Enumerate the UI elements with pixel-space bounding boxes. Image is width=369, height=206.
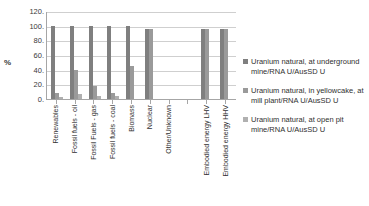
bar[interactable] <box>107 26 111 99</box>
x-axis-label-wrapper <box>179 105 198 205</box>
x-axis-category-label: Nuclear <box>146 105 154 129</box>
y-axis-tick-label: 120. <box>14 8 44 16</box>
y-axis-tick-label: 40. <box>14 67 44 75</box>
x-axis-label-wrapper: Fossil Fuels - gas <box>85 105 104 205</box>
bar[interactable] <box>51 26 55 99</box>
plot-area <box>46 12 236 100</box>
x-axis-tick <box>56 100 57 104</box>
legend-label: Uranium natural, at open pit mine/RNA U/… <box>251 115 367 134</box>
x-axis-tick-wrapper <box>122 100 141 104</box>
x-axis-tick-wrapper <box>47 100 66 104</box>
x-axis-category-label: Embodied energy HHV <box>222 105 230 177</box>
x-axis-category-label: Other/Unknown <box>165 105 173 154</box>
bar[interactable] <box>224 29 228 99</box>
x-axis-category-label: Fossil fuels - oil <box>71 105 79 153</box>
x-axis-tick <box>131 100 132 104</box>
legend-label: Uranium natural, in yellowcake, at mill … <box>251 86 367 105</box>
bar[interactable] <box>78 94 82 99</box>
legend-swatch-icon <box>243 117 248 122</box>
x-axis-label-wrapper: Fossil fuels - coal <box>103 105 122 205</box>
x-axis-label-wrapper: Other/Unknown <box>160 105 179 205</box>
bar-group <box>48 12 67 99</box>
bar[interactable] <box>59 97 63 99</box>
y-axis-title: % <box>4 58 11 67</box>
bar[interactable] <box>130 66 134 99</box>
bar-group <box>104 12 123 99</box>
legend-item[interactable]: Uranium natural, in yellowcake, at mill … <box>243 86 367 105</box>
legend-item[interactable]: Uranium natural, at open pit mine/RNA U/… <box>243 115 367 134</box>
x-axis-tick-wrapper <box>103 100 122 104</box>
x-axis-tick <box>93 100 94 104</box>
x-axis-label-wrapper: Embodied energy LHV <box>197 105 216 205</box>
x-axis-tick-wrapper <box>197 100 216 104</box>
legend-swatch-icon <box>243 59 248 64</box>
bar[interactable] <box>149 29 153 99</box>
bar-group <box>160 12 179 99</box>
y-axis-tick-labels: 120.100.80.60.40.20.0. <box>14 12 44 100</box>
bar-group <box>179 12 198 99</box>
y-axis-tick-label: 20. <box>14 81 44 89</box>
x-axis-tick <box>75 100 76 104</box>
x-axis-label-wrapper: Nuclear <box>141 105 160 205</box>
x-axis-tick <box>187 100 188 104</box>
legend-item[interactable]: Uranium natural, at underground mine/RNA… <box>243 57 367 76</box>
bar[interactable] <box>205 29 209 99</box>
legend-label: Uranium natural, at underground mine/RNA… <box>251 57 367 76</box>
x-axis-tick-wrapper <box>66 100 85 104</box>
x-axis-label-wrapper: Embodied energy HHV <box>216 105 235 205</box>
bar-series-container <box>47 12 236 99</box>
bar-group <box>67 12 86 99</box>
bar-group <box>123 12 142 99</box>
x-axis-label-wrapper: Fossil fuels - oil <box>66 105 85 205</box>
x-axis-category-label: Fossil fuels - coal <box>109 105 117 159</box>
x-axis-tick <box>206 100 207 104</box>
x-axis-tick <box>150 100 151 104</box>
x-axis-tick-wrapper <box>141 100 160 104</box>
x-axis-tick-wrapper <box>179 100 198 104</box>
x-axis-category-labels: RenewablesFossil fuels - oilFossil Fuels… <box>46 105 236 205</box>
bar[interactable] <box>97 96 101 99</box>
bar-group <box>85 12 104 99</box>
legend-swatch-icon <box>243 88 248 93</box>
x-axis-category-label: Biomass <box>128 105 136 132</box>
x-axis-tick-wrapper <box>160 100 179 104</box>
x-axis-category-label: Embodied energy LHV <box>203 105 211 175</box>
x-axis-tick <box>225 100 226 104</box>
chart-page: % 120.100.80.60.40.20.0. RenewablesFossi… <box>0 0 369 206</box>
x-axis-label-wrapper: Renewables <box>47 105 66 205</box>
x-axis-category-label: Renewables <box>52 105 60 144</box>
chart-legend: Uranium natural, at underground mine/RNA… <box>243 57 367 144</box>
bar-group <box>142 12 161 99</box>
bar-group <box>216 12 235 99</box>
x-axis-tick-wrapper <box>216 100 235 104</box>
x-axis-tick-wrapper <box>85 100 104 104</box>
x-axis-ticks <box>46 100 236 104</box>
x-axis-tick <box>169 100 170 104</box>
x-axis-label-wrapper: Biomass <box>122 105 141 205</box>
y-axis-tick-label: 60. <box>14 52 44 60</box>
y-axis-tick-label: 100. <box>14 23 44 31</box>
y-axis-tick-label: 80. <box>14 37 44 45</box>
bar-group <box>198 12 217 99</box>
y-axis-tick-label: 0. <box>14 96 44 104</box>
x-axis-tick <box>112 100 113 104</box>
x-axis-category-label: Fossil Fuels - gas <box>90 105 98 160</box>
bar[interactable] <box>115 96 119 99</box>
